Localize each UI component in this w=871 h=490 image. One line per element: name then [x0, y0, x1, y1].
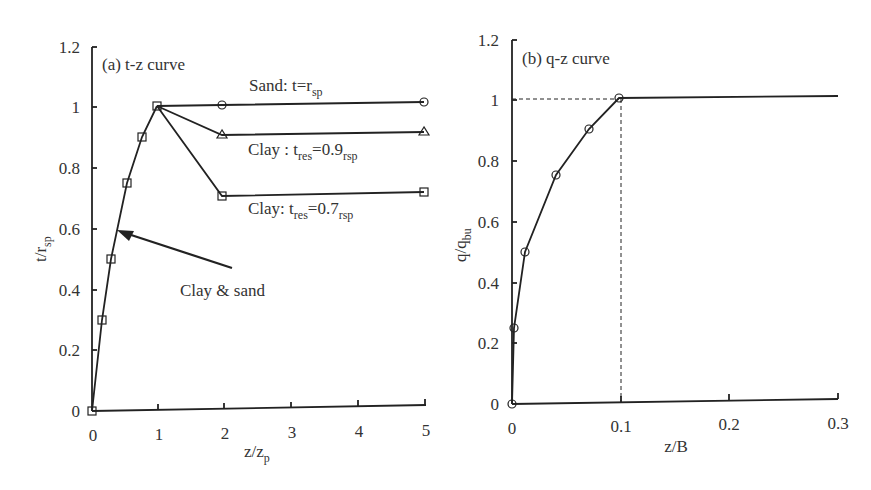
label-clay-09: Clay : tres=0.9rsp	[248, 140, 358, 163]
clay-sand-arrow	[122, 232, 232, 268]
chart-a-x-axis	[92, 405, 426, 411]
series-clay-and-sand	[92, 106, 157, 411]
series-sand	[157, 102, 424, 106]
svg-text:0.2: 0.2	[59, 341, 80, 360]
chart-a-xlabel: z/zp	[244, 442, 270, 465]
svg-text:5: 5	[422, 421, 431, 440]
chart-b-ylabel: q/qbu	[451, 228, 474, 262]
label-clay-and-sand: Clay & sand	[180, 281, 265, 300]
svg-text:0: 0	[508, 419, 517, 438]
svg-text:0.1: 0.1	[610, 417, 631, 436]
svg-text:0.2: 0.2	[478, 334, 499, 353]
label-sand: Sand: t=rsp	[249, 76, 323, 99]
chart-a	[88, 47, 429, 415]
svg-text:0.6: 0.6	[59, 220, 80, 239]
chart-b-xlabel: z/B	[664, 437, 688, 456]
svg-text:0.8: 0.8	[59, 159, 80, 178]
chart-a-title: (a) t-z curve	[102, 55, 185, 74]
svg-text:0: 0	[491, 395, 500, 414]
svg-text:1: 1	[155, 425, 164, 444]
svg-text:2: 2	[221, 424, 230, 443]
svg-text:4: 4	[355, 422, 364, 441]
figure: 1.2 1 0.8 0.6 0.4 0.2 0 0 1 2 3 4 5 z/zp…	[0, 0, 871, 490]
svg-text:1: 1	[491, 91, 500, 110]
chart-b	[508, 40, 838, 408]
svg-text:0: 0	[89, 426, 98, 445]
svg-text:0: 0	[72, 402, 81, 421]
series-clay-09	[157, 106, 424, 135]
chart-b-x-axis	[512, 399, 838, 404]
series-q-z	[512, 96, 838, 404]
svg-text:0.4: 0.4	[478, 274, 500, 293]
svg-text:1.2: 1.2	[478, 31, 499, 50]
chart-b-title: (b) q-z curve	[522, 49, 610, 68]
chart-b-labels: 1.2 1 0.8 0.6 0.4 0.2 0 0 0.1 0.2 0.3 z/…	[451, 31, 849, 456]
svg-text:0.6: 0.6	[478, 213, 499, 232]
svg-text:0.2: 0.2	[718, 415, 739, 434]
svg-text:0.3: 0.3	[827, 414, 848, 433]
svg-text:3: 3	[288, 423, 297, 442]
chart-a-ylabel: t/rsp	[31, 236, 54, 262]
svg-text:0.8: 0.8	[478, 152, 499, 171]
label-clay-07: Clay: tres=0.7rsp	[248, 199, 353, 222]
svg-text:1.2: 1.2	[59, 38, 80, 57]
svg-text:1: 1	[72, 98, 81, 117]
svg-text:0.4: 0.4	[59, 281, 81, 300]
